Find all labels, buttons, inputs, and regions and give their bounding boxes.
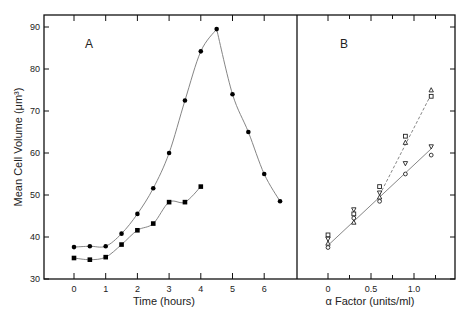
data-point-circle xyxy=(119,231,124,236)
data-point-open-circle xyxy=(326,246,330,250)
panel-label-a: A xyxy=(85,37,93,51)
x-tick-label-b: 0.5 xyxy=(365,284,378,294)
data-point-circle xyxy=(183,98,188,103)
x-tick-label-a: 5 xyxy=(230,284,235,294)
x-tick-label-b: 0 xyxy=(325,284,330,294)
y-tick-label: 60 xyxy=(30,148,40,158)
data-point-square xyxy=(151,221,156,226)
data-point-open-inverted-triangle xyxy=(429,145,433,149)
y-tick-label: 80 xyxy=(30,64,40,74)
x-tick-label-a: 2 xyxy=(135,284,140,294)
x-axis-label-b: α Factor (units/ml) xyxy=(326,295,415,307)
x-tick-label-a: 1 xyxy=(103,284,108,294)
y-axis-label: Mean Cell Volume (μm³) xyxy=(12,88,24,207)
data-point-square xyxy=(199,184,204,189)
data-point-circle xyxy=(262,172,267,177)
data-point-circle xyxy=(199,49,204,54)
data-point-open-square xyxy=(404,134,408,138)
data-point-circle xyxy=(230,92,235,97)
data-point-square xyxy=(88,257,93,262)
data-point-circle xyxy=(214,27,219,32)
x-tick-label-a: 6 xyxy=(262,284,267,294)
data-point-open-inverted-triangle xyxy=(403,162,407,166)
data-point-circle xyxy=(103,244,108,249)
y-tick-label: 30 xyxy=(30,274,40,284)
data-point-open-triangle xyxy=(352,220,356,224)
data-point-square xyxy=(135,228,140,233)
data-point-square xyxy=(72,256,77,261)
curve-squares xyxy=(74,187,201,260)
x-tick-label-a: 0 xyxy=(71,284,76,294)
panel-b: 00.51.0 xyxy=(325,15,435,294)
plot-frame: 30405060708090 xyxy=(30,15,455,284)
data-point-open-square xyxy=(429,94,433,98)
plot-border xyxy=(44,15,455,279)
figure: 30405060708090 0123456 00.51.0 Mean Cell… xyxy=(0,0,467,318)
x-axis-label-a: Time (hours) xyxy=(133,295,195,307)
panel-a: 0123456 xyxy=(71,15,282,294)
y-tick-label: 90 xyxy=(30,22,40,32)
data-point-open-square xyxy=(378,185,382,189)
data-point-square xyxy=(103,255,108,260)
data-point-open-circle xyxy=(404,172,408,176)
data-point-circle xyxy=(72,245,77,250)
y-tick-label: 50 xyxy=(30,190,40,200)
data-point-open-circle xyxy=(429,153,433,157)
data-point-circle xyxy=(246,130,251,135)
data-point-circle xyxy=(278,199,283,204)
data-point-circle xyxy=(88,244,93,249)
curve-circles-fall xyxy=(217,29,280,201)
data-point-open-inverted-triangle xyxy=(326,237,330,241)
panel-label-b: B xyxy=(340,37,348,51)
data-point-square xyxy=(119,242,124,247)
x-tick-label-a: 3 xyxy=(167,284,172,294)
data-point-open-square xyxy=(326,233,330,237)
curve-circles-rise xyxy=(74,29,217,247)
x-tick-label-a: 4 xyxy=(198,284,203,294)
data-point-circle xyxy=(135,212,140,217)
data-point-circle xyxy=(167,151,172,156)
data-point-open-inverted-triangle xyxy=(377,191,381,195)
data-point-circle xyxy=(151,186,156,191)
y-tick-label: 40 xyxy=(30,232,40,242)
x-tick-label-b: 1.0 xyxy=(408,284,421,294)
data-point-open-circle xyxy=(378,199,382,203)
data-point-open-circle xyxy=(352,216,356,220)
data-point-open-inverted-triangle xyxy=(352,208,356,212)
data-point-square xyxy=(183,200,188,205)
data-point-open-triangle xyxy=(429,88,433,92)
y-tick-label: 70 xyxy=(30,106,40,116)
data-point-square xyxy=(167,200,172,205)
